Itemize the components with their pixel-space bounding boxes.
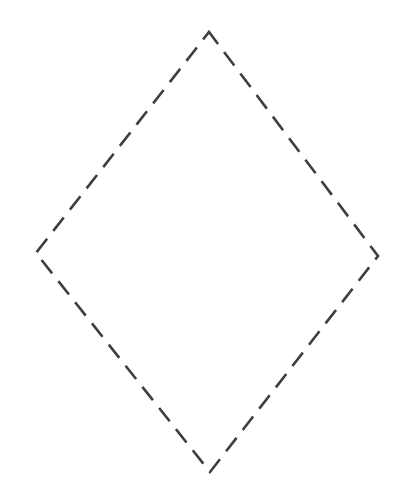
shape-canvas-svg: [0, 0, 410, 500]
canvas-background: [0, 0, 410, 500]
drawing-canvas: [0, 0, 410, 500]
